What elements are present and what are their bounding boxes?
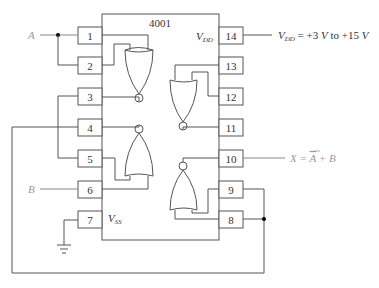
vdd-inside-label: VDD [196,30,213,44]
pin-11-label: 11 [226,122,237,134]
pin-1-label: 1 [87,30,93,42]
vss-inside-label: VSS [108,212,122,226]
pin-2-label: 2 [87,60,93,72]
pin-8-label: 8 [228,214,234,226]
pin-6-label: 6 [87,184,93,196]
pin-5-label: 5 [87,153,93,165]
input-a-label: A [27,29,35,41]
left-pins: 1 2 3 4 5 6 7 [78,27,102,228]
nor-gate-1 [102,35,153,102]
nor-gate-2 [170,65,219,130]
nor-gate-4 [170,158,219,219]
output-label: X = A + B [289,152,336,164]
ground-wire [64,220,78,245]
wire-a-to-pin2 [58,35,78,65]
wire-pin9 [243,189,264,219]
supply-label: VDD = +3 V to +15 V [278,29,370,43]
pin-9-label: 9 [228,184,234,196]
circuit-diagram: 4001 1 2 3 4 5 6 7 14 13 12 11 10 9 8 VD… [0,0,379,288]
pin-14-label: 14 [226,30,238,42]
pin-7-label: 7 [87,214,93,226]
pin-3-label: 3 [87,91,93,103]
pin-13-label: 13 [226,60,238,72]
inverter-bubble-4 [179,162,187,170]
nor-gate-3 [102,125,153,189]
input-b-label: B [28,183,35,195]
pin-4-label: 4 [87,122,93,134]
pin-12-label: 12 [226,91,237,103]
part-number: 4001 [149,17,171,29]
junction-dot-8-9 [262,217,266,221]
right-pins: 14 13 12 11 10 9 8 [219,27,243,228]
pin-10-label: 10 [226,153,238,165]
ground-icon [57,245,71,253]
